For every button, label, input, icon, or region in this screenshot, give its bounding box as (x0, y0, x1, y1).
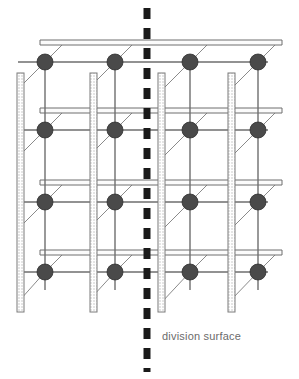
joint-node (182, 194, 198, 210)
joint-node (107, 194, 123, 210)
joint-node (37, 122, 53, 138)
joint-node (37, 264, 53, 280)
joint-node (182, 264, 198, 280)
joint-node (182, 54, 198, 70)
wall-panel-3 (158, 73, 165, 312)
joint-node (250, 264, 266, 280)
wall-panel-4 (228, 73, 235, 312)
vertical-members (45, 62, 258, 290)
joint-node (107, 264, 123, 280)
joint-node (182, 122, 198, 138)
joint-node (37, 54, 53, 70)
joint-node (250, 54, 266, 70)
division-surface-label: division surface (162, 330, 241, 342)
wall-panel-1 (17, 73, 24, 312)
joint-node (107, 122, 123, 138)
joint-node (107, 54, 123, 70)
joint-node (37, 194, 53, 210)
joint-node (250, 122, 266, 138)
lattice-diagram-canvas: division surface (0, 0, 299, 379)
lattice-diagram-figure: division surface (0, 0, 299, 379)
slab-row-1 (40, 40, 282, 45)
wall-panel-2 (90, 73, 97, 312)
joint-node (250, 194, 266, 210)
